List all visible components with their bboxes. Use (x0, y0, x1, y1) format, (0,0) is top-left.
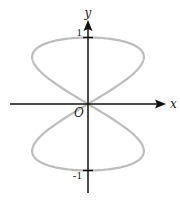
y-tick-label: 1 (77, 26, 83, 38)
y-tick-label: -1 (73, 169, 82, 181)
chart: 1 -1 x y O (0, 0, 180, 200)
y-axis-label: y (84, 6, 92, 20)
x-axis-label: x (170, 97, 177, 111)
origin-label: O (74, 106, 84, 120)
